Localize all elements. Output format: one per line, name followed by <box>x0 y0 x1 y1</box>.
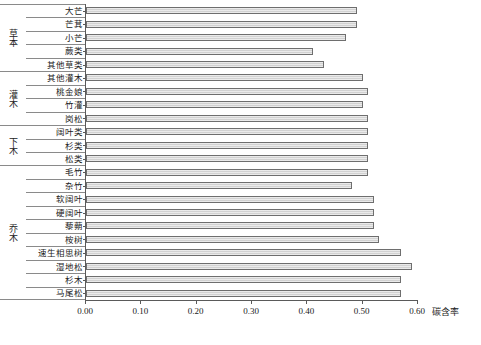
group-cell: 乔木 <box>0 165 26 300</box>
species-label-cell: 芒萁 <box>26 17 85 30</box>
bar-row <box>86 179 418 192</box>
y-axis-tick <box>83 280 86 281</box>
x-axis-tick <box>362 300 363 304</box>
bar <box>86 196 374 203</box>
bar-row <box>86 125 418 138</box>
bar <box>86 101 363 108</box>
bar-row <box>86 112 418 125</box>
species-label-cell: 大芒 <box>26 4 85 17</box>
y-axis-tick <box>83 24 86 25</box>
species-label-cell: 速生相思树 <box>26 246 85 259</box>
carbon-content-bar-chart: 草本灌木下木乔木 大芒芒萁小芒蕨类其他草类其他灌木桃金娘竹灌岗松阔叶类杉类松类毛… <box>0 0 481 345</box>
bar-row <box>86 152 418 165</box>
species-label: 竹灌 <box>65 101 83 110</box>
bar <box>86 209 374 216</box>
species-label: 芒萁 <box>65 20 83 29</box>
bar-row <box>86 260 418 273</box>
bar <box>86 222 374 229</box>
bar <box>86 48 313 55</box>
bar <box>86 263 412 270</box>
species-label: 杉木 <box>65 276 83 285</box>
bar-row <box>86 58 418 71</box>
x-axis-tick-label: 0.50 <box>354 306 370 316</box>
species-label: 藜蒴 <box>65 222 83 231</box>
species-label: 阔叶类 <box>56 128 83 137</box>
species-label-cell: 杂竹 <box>26 179 85 192</box>
species-label: 松类 <box>65 155 83 164</box>
species-label-cell: 桃金娘 <box>26 85 85 98</box>
species-label: 其他草类 <box>47 61 83 70</box>
bar-row <box>86 17 418 30</box>
species-label-cell: 竹灌 <box>26 98 85 111</box>
y-axis-tick <box>83 213 86 214</box>
species-label: 桉树 <box>65 236 83 245</box>
x-axis-tick-label: 0.60 <box>409 306 425 316</box>
species-label-cell: 硬阔叶 <box>26 206 85 219</box>
x-axis-tick <box>251 300 252 304</box>
species-label-cell: 蕨类 <box>26 44 85 57</box>
species-label: 软阔叶 <box>56 195 83 204</box>
bar-row <box>86 85 418 98</box>
bar <box>86 182 352 189</box>
y-axis-tick <box>83 132 86 133</box>
bar <box>86 88 368 95</box>
y-axis-tick <box>83 172 86 173</box>
species-label-cell: 藜蒴 <box>26 219 85 232</box>
species-label: 马尾松 <box>56 289 83 298</box>
species-label-cell: 杉木 <box>26 273 85 286</box>
species-label: 杂竹 <box>65 182 83 191</box>
species-label: 硬阔叶 <box>56 209 83 218</box>
plot-area <box>85 4 418 300</box>
bar <box>86 74 363 81</box>
species-label-cell: 湿地松 <box>26 260 85 273</box>
bar <box>86 236 379 243</box>
species-label-cell: 桉树 <box>26 233 85 246</box>
species-label-cell: 马尾松 <box>26 287 85 300</box>
species-label-cell: 小芒 <box>26 31 85 44</box>
bar-row <box>86 44 418 57</box>
bar-row <box>86 273 418 286</box>
bar <box>86 128 368 135</box>
y-axis-tick <box>83 11 86 12</box>
species-label: 小芒 <box>65 34 83 43</box>
bar <box>86 115 368 122</box>
species-label: 毛竹 <box>65 168 83 177</box>
species-label: 其他灌木 <box>47 74 83 83</box>
bar-row <box>86 139 418 152</box>
bar <box>86 34 346 41</box>
x-axis-tick-label: 0.30 <box>243 306 259 316</box>
species-label-cell: 杉类 <box>26 139 85 152</box>
x-axis-tick <box>417 300 418 304</box>
bar-row <box>86 206 418 219</box>
bar-row <box>86 192 418 205</box>
x-axis-tick <box>140 300 141 304</box>
species-label: 蕨类 <box>65 47 83 56</box>
bar <box>86 276 401 283</box>
x-axis-tick-label: 0.00 <box>77 306 93 316</box>
x-axis-tick <box>85 300 86 304</box>
x-axis-tick-label: 0.20 <box>188 306 204 316</box>
x-axis-title: 碳含率 <box>432 305 459 318</box>
species-label-cell: 其他草类 <box>26 58 85 71</box>
group-cell: 草本 <box>0 4 26 71</box>
bar <box>86 169 368 176</box>
species-label: 大芒 <box>65 7 83 16</box>
species-label-cell: 软阔叶 <box>26 192 85 205</box>
y-axis-tick <box>83 159 86 160</box>
y-axis-tick <box>83 266 86 267</box>
bar-row <box>86 219 418 232</box>
bar <box>86 61 324 68</box>
group-label: 下木 <box>9 137 18 155</box>
y-axis-tick <box>83 186 86 187</box>
group-label: 乔木 <box>9 224 18 242</box>
species-label: 速生相思树 <box>38 249 83 258</box>
bar-row <box>86 233 418 246</box>
y-axis-tick <box>83 78 86 79</box>
bar <box>86 290 401 297</box>
bar <box>86 155 368 162</box>
group-label: 灌木 <box>9 90 18 108</box>
species-label: 湿地松 <box>56 263 83 272</box>
bar-row <box>86 98 418 111</box>
group-cell: 灌木 <box>0 71 26 125</box>
species-label: 桃金娘 <box>56 88 83 97</box>
